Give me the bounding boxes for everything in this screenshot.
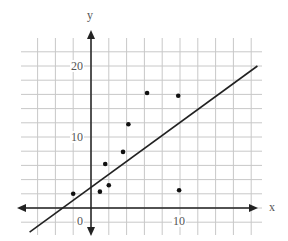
- y-tick-10: 10: [70, 131, 84, 143]
- scatter-plot: [0, 0, 288, 241]
- data-point: [71, 192, 76, 197]
- origin-label: 0: [76, 215, 84, 227]
- y-axis-label: y: [86, 9, 94, 21]
- data-point: [176, 94, 181, 99]
- y-tick-20: 20: [70, 60, 84, 72]
- data-point: [98, 189, 103, 194]
- x-tick-10: 10: [172, 215, 186, 227]
- x-axis-left-arrow-icon: [17, 204, 26, 212]
- data-point: [121, 150, 126, 155]
- axes: [17, 30, 258, 236]
- x-axis-label: x: [268, 201, 276, 213]
- data-point: [177, 188, 182, 193]
- y-axis-down-arrow-icon: [87, 227, 95, 236]
- x-axis-right-arrow-icon: [249, 204, 258, 212]
- trend-line: [30, 66, 258, 232]
- data-point: [107, 183, 112, 188]
- data-point: [145, 91, 150, 96]
- data-point: [126, 122, 131, 127]
- y-axis-up-arrow-icon: [87, 30, 95, 39]
- data-point: [103, 162, 108, 167]
- best-fit-line: [30, 66, 258, 232]
- grid-lines: [21, 38, 262, 235]
